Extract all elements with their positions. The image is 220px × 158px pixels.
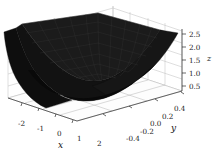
z-tick-label: 1.0 <box>189 70 200 77</box>
z-axis-title: z <box>207 55 211 63</box>
z-tick-label: 0.5 <box>189 83 200 90</box>
x-axis-title: x <box>58 141 63 150</box>
x-tick-label: 1 <box>77 135 82 142</box>
y-tick-label: -0.2 <box>140 128 154 135</box>
x-tick-label: -2 <box>18 120 25 127</box>
plot-canvas <box>0 0 220 158</box>
y-tick-label: 0.2 <box>162 113 173 120</box>
y-axis-title: y <box>171 124 176 133</box>
y-tick-label: 0.4 <box>174 105 185 112</box>
z-tick-label: 1.5 <box>189 57 200 64</box>
y-tick-label: 0.0 <box>150 120 161 127</box>
z-axis <box>182 29 186 91</box>
x-tick-label: -1 <box>37 125 44 132</box>
z-tick-label: 2.5 <box>189 31 200 38</box>
x-tick-label: 0 <box>57 130 62 137</box>
x-tick-label: 2 <box>97 140 102 147</box>
z-tick-label: 2.0 <box>189 44 200 51</box>
surface-plot-figure: -2 -1 0 1 2 x -0.4 -0.2 0.0 0.2 0.4 y 0.… <box>0 0 220 158</box>
y-tick-label: -0.4 <box>126 135 140 142</box>
